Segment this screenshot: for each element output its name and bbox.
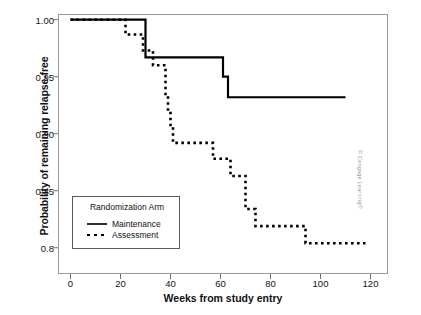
- legend-swatch-solid: [87, 220, 107, 228]
- x-tick-label: 120: [351, 278, 391, 289]
- x-tick-label: 20: [101, 278, 141, 289]
- legend-swatch-dotted: [87, 231, 107, 239]
- legend-box: Randomization Arm Maintenance Assessment: [72, 196, 180, 249]
- x-tick-label: 40: [151, 278, 191, 289]
- copyright-credit: © Cengage Learning®: [357, 150, 363, 270]
- legend-label-maintenance: Maintenance: [112, 219, 161, 229]
- kaplan-meier-figure: Probability of remaining relapse-free 1.…: [0, 0, 421, 315]
- x-axis-title: Weeks from study entry: [58, 292, 388, 304]
- legend-entry-assessment: Assessment: [87, 229, 158, 241]
- x-tick-label: 80: [251, 278, 291, 289]
- legend-title: Randomization Arm: [73, 202, 181, 212]
- x-tick-label: 60: [201, 278, 241, 289]
- x-tick-label: 0: [51, 278, 91, 289]
- legend-label-assessment: Assessment: [112, 230, 158, 240]
- series-line-maintenance: [71, 20, 346, 98]
- x-tick-label: 100: [301, 278, 341, 289]
